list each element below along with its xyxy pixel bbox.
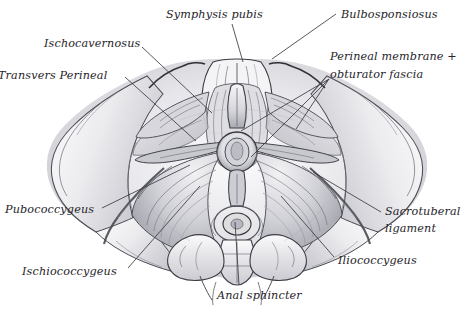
label-iliococcygeus: Iliococcygeus — [338, 254, 417, 268]
label-obturator-fascia: obturator fascia — [330, 68, 423, 82]
label-sacrotuberal-ligament-2: ligament — [385, 222, 436, 236]
label-symphysis-pubis: Symphysis pubis — [166, 8, 263, 22]
label-anal-sphincter: Anal sphincter — [217, 289, 302, 303]
leader-symphysis-pubis — [232, 24, 243, 62]
label-ischiococcygeus: Ischiococcygeus — [22, 265, 117, 279]
label-sacrotuberal-ligament: Sacrotuberal — [385, 205, 461, 219]
coccyx — [219, 240, 254, 285]
label-transverse-perineal: Transvers Perineal — [0, 69, 107, 83]
urethral-opening — [228, 84, 246, 128]
vaginal-opening — [217, 132, 257, 172]
perineal-body — [229, 170, 246, 206]
anatomy-diagram: Symphysis pubisBulbosponsiosusIschocaver… — [0, 0, 474, 309]
label-bulbospongiosus: Bulbosponsiosus — [341, 8, 438, 22]
leader-bulbospongiosus — [272, 14, 336, 59]
label-pubococcygeus: Pubococcygeus — [5, 203, 94, 217]
label-ischiocavernosus: Ischocavernosus — [44, 37, 140, 51]
label-perineal-membrane: Perineal membrane + — [330, 50, 457, 64]
